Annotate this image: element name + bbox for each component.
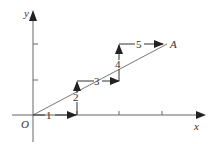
y-axis	[29, 10, 38, 142]
step-1-label: 1	[46, 109, 52, 121]
displacement-diagram: 1 2 3 4 5 A O y x	[0, 0, 220, 144]
x-axis-arrow-icon	[196, 111, 206, 119]
endpoint-label: A	[169, 38, 177, 50]
step-2-label: 2	[73, 91, 79, 103]
x-axis-label: x	[193, 120, 199, 132]
origin-label: O	[21, 118, 29, 130]
y-axis-label: y	[23, 7, 29, 19]
step-4-label: 4	[115, 58, 121, 70]
y-axis-arrow-icon	[29, 10, 37, 21]
step-3-label: 3	[94, 75, 100, 87]
step-5-label: 5	[136, 38, 142, 50]
resultant-line	[33, 44, 167, 115]
